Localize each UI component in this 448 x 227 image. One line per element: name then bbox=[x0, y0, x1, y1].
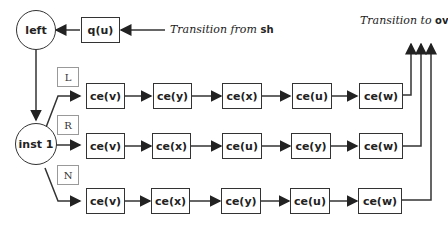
branch-label-r: R bbox=[57, 115, 79, 135]
node-inst-label: inst 1 bbox=[19, 138, 54, 151]
row2-step4: ce(y) bbox=[291, 133, 331, 159]
row2-step1: ce(v) bbox=[86, 133, 125, 159]
annotation-to: Transition to ov bbox=[360, 14, 448, 27]
annotation-from-target: sh bbox=[260, 24, 273, 35]
node-left: left bbox=[16, 10, 56, 50]
node-inst: inst 1 bbox=[15, 123, 57, 165]
row1-step3: ce(x) bbox=[222, 83, 262, 109]
row3-step1: ce(v) bbox=[86, 188, 125, 214]
row3-step4: ce(u) bbox=[290, 188, 330, 214]
branch-label-n: N bbox=[57, 165, 79, 185]
row1-step4: ce(u) bbox=[292, 83, 332, 109]
row3-step3: ce(y) bbox=[221, 188, 261, 214]
annotation-from: Transition from sh bbox=[170, 23, 274, 36]
node-q-label: q(u) bbox=[88, 24, 114, 37]
row1-step5: ce(w) bbox=[359, 83, 403, 109]
row1-step1: ce(v) bbox=[86, 83, 125, 109]
row3-step5: ce(w) bbox=[358, 188, 402, 214]
row1-step2: ce(y) bbox=[153, 83, 192, 109]
annotation-to-target: ov bbox=[435, 15, 448, 26]
row2-step3: ce(u) bbox=[222, 133, 262, 159]
branch-label-l: L bbox=[57, 67, 79, 87]
row2-step5: ce(w) bbox=[359, 133, 403, 159]
row3-step2: ce(x) bbox=[151, 188, 190, 214]
row2-step2: ce(x) bbox=[152, 133, 191, 159]
node-q: q(u) bbox=[81, 17, 120, 43]
node-left-label: left bbox=[25, 24, 46, 37]
